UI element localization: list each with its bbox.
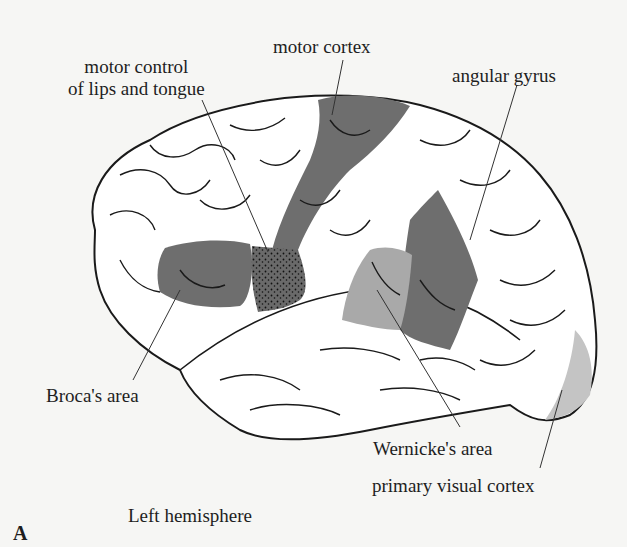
label-angular-gyrus: angular gyrus <box>452 65 556 87</box>
label-motor-control: motor control of lips and tongue <box>68 56 205 100</box>
label-broca: Broca's area <box>46 385 139 407</box>
label-wernicke: Wernicke's area <box>373 438 493 460</box>
label-motor-control-line1: motor control <box>68 56 205 78</box>
panel-letter: A <box>13 522 27 545</box>
label-motor-control-line2: of lips and tongue <box>68 78 205 100</box>
label-visual-cortex: primary visual cortex <box>372 475 535 497</box>
label-motor-cortex: motor cortex <box>273 36 371 58</box>
broca-region <box>158 241 252 308</box>
caption: Left hemisphere <box>128 505 252 527</box>
